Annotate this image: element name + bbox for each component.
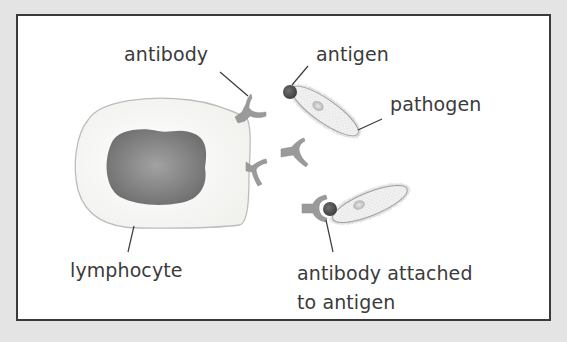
antibody-icon (235, 94, 266, 123)
antigen-icon (283, 85, 297, 99)
pathogen-leader-line (358, 119, 382, 130)
pathogen-label: pathogen (390, 93, 481, 115)
antibody-leader-line (220, 72, 248, 96)
pathogen-cell (325, 175, 415, 233)
antigen-label: antigen (316, 43, 389, 65)
diagram-artwork (0, 0, 567, 342)
lymphocyte-label: lymphocyte (70, 259, 183, 281)
free-antibody-icon (281, 138, 308, 167)
pathogen-cell (282, 75, 369, 147)
lymphocyte-cell (75, 98, 250, 228)
attached-label-line1: antibody attached (297, 262, 473, 284)
antigen-icon (323, 202, 337, 216)
antibody-label: antibody (124, 43, 208, 65)
attached-label-line2: to antigen (297, 291, 395, 313)
lymphocyte-leader-line (128, 226, 134, 252)
lymphocyte-nucleus (107, 129, 207, 205)
antigen-leader-line (292, 66, 308, 85)
attached-leader-line (326, 220, 333, 252)
